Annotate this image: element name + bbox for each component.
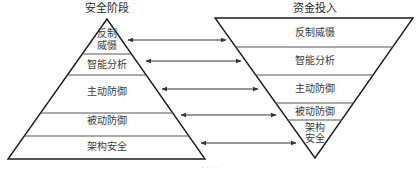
right-layer-active-defense: 主动防御 xyxy=(295,83,335,95)
right-layer-architecture-security: 架构 安全 xyxy=(305,122,325,144)
left-pyramid-title: 安全阶段 xyxy=(85,3,129,15)
right-pyramid-title: 资金投入 xyxy=(293,3,337,15)
right-layer-passive-defense: 被动防御 xyxy=(295,106,335,118)
right-layer-intelligent-analysis: 智能分析 xyxy=(295,55,335,67)
left-layer-passive-defense: 被动防御 xyxy=(87,115,127,127)
left-layer-architecture-security: 架构安全 xyxy=(87,141,127,153)
mapping-arrows xyxy=(128,40,296,143)
left-layer-intelligent-analysis: 智能分析 xyxy=(87,59,127,71)
right-layer-deterrence: 反制威慑 xyxy=(295,27,335,39)
figure-caption: · · · · xyxy=(201,162,219,174)
left-layer-active-defense: 主动防御 xyxy=(87,86,127,98)
left-layer-deterrence: 反制 威慑 xyxy=(97,28,117,52)
diagram-canvas xyxy=(0,0,417,174)
